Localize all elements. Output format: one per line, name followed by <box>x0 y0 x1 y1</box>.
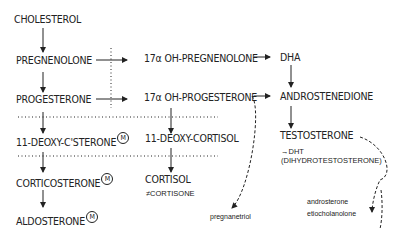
node-11-deoxy-csterone: 11-DEOXY-C'STERONEM <box>16 132 129 148</box>
node-corticosterone: CORTICOSTERONEM <box>16 173 113 189</box>
node-11-deoxy-cortisol: 11-DEOXY-CORTISOL <box>145 132 239 144</box>
label: CORTICOSTERONE <box>16 177 100 189</box>
node-dht: →DHT <box>281 147 304 156</box>
label: 11-DEOXY-C'STERONE <box>16 136 116 148</box>
node-androsterone: androsterone <box>307 198 348 205</box>
node-progesterone: PROGESTERONE <box>16 93 91 105</box>
node-17oh-pregnenolone: 17α OH-PREGNENOLONE <box>144 52 258 64</box>
node-cortisone: ≠CORTISONE <box>146 189 195 198</box>
m-marker-icon: M <box>117 132 129 144</box>
node-androstenedione: ANDROSTENEDIONE <box>280 90 373 102</box>
node-aldosterone: ALDOSTERONEM <box>16 211 98 227</box>
node-etiocholanolone: etiocholanolone <box>307 210 356 217</box>
m-marker-icon: M <box>86 211 98 223</box>
node-cortisol: CORTISOL <box>145 173 190 185</box>
node-dht-full: (DIHYDROTESTOSTERONE) <box>281 156 382 165</box>
node-cholesterol: CHOLESTEROL <box>14 13 81 25</box>
node-17oh-progesterone: 17α OH-PROGESTERONE <box>144 91 257 103</box>
node-pregnanetriol: pregnanetriol <box>210 213 251 220</box>
node-dha: DHA <box>280 51 300 63</box>
label: ALDOSTERONE <box>16 215 85 227</box>
m-marker-icon: M <box>101 173 113 185</box>
node-testosterone: TESTOSTERONE <box>280 129 353 141</box>
node-pregnenolone: PREGNENOLONE <box>16 54 92 66</box>
